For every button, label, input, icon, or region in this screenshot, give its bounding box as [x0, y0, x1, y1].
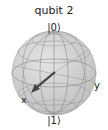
bloch-sphere: |0⟩ |1⟩ x y: [0, 0, 108, 130]
label-ket-one: |1⟩: [47, 115, 61, 127]
label-ket-zero: |0⟩: [47, 22, 61, 34]
label-y-axis: y: [94, 80, 100, 91]
label-x-axis: x: [21, 95, 27, 105]
